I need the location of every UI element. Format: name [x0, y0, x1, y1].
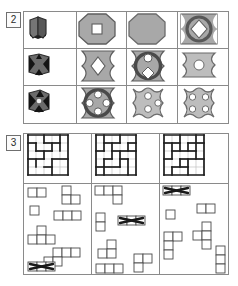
piece-domino-h[interactable] — [28, 188, 46, 197]
figure-page: 2 — [0, 0, 238, 286]
matrix-cell-r2c1[interactable] — [24, 49, 77, 86]
matrix-cell-r1c3[interactable] — [127, 12, 177, 49]
starred-block-icon — [24, 86, 76, 123]
concave-rect-ring-diamond — [178, 12, 228, 48]
piece-crossed-plus[interactable] — [118, 216, 145, 225]
hourglass-ring-two-circles-diamond — [127, 49, 176, 85]
puzzle-grid-cell-2[interactable] — [92, 134, 160, 184]
shape-matrix-grid — [24, 12, 228, 123]
lobed-shape-three-circles — [127, 86, 176, 123]
panel-label-2: 2 — [6, 12, 21, 28]
matrix-cell-r2c4[interactable] — [178, 49, 228, 86]
matrix-cell-r1c4[interactable] — [178, 12, 228, 49]
piece-t-tetromino[interactable] — [193, 222, 211, 249]
piece-l-tromino[interactable] — [62, 186, 80, 204]
concave-rect-circle-hole — [178, 49, 228, 85]
piece-t-tetromino[interactable] — [28, 226, 55, 244]
piece-i-tromino-v[interactable] — [216, 246, 225, 273]
notched-block-icon — [24, 49, 76, 85]
puzzle-grid-cell-3[interactable] — [160, 134, 228, 184]
cube-icon — [24, 12, 76, 48]
piece-tray-cell-3[interactable] — [160, 184, 228, 274]
matrix-cell-r3c1[interactable] — [24, 86, 77, 123]
piece-i-tromino-h[interactable] — [54, 211, 81, 220]
piece-domino-h[interactable] — [197, 204, 215, 213]
matrix-cell-r1c2[interactable] — [77, 12, 127, 49]
puzzle-grid-cell-1[interactable] — [24, 134, 92, 184]
matrix-cell-r2c3[interactable] — [127, 49, 177, 86]
piece-tray-cell-2[interactable] — [92, 184, 160, 274]
matrix-cell-r2c2[interactable] — [77, 49, 127, 86]
piece-crossed-i-tromino[interactable] — [163, 186, 190, 195]
panel-shape-matrix — [23, 11, 229, 124]
piece-l-pentomino[interactable] — [164, 232, 182, 259]
hourglass-ring-four-circles — [77, 86, 126, 123]
hourglass-with-diamond-hole — [77, 49, 126, 85]
plain-octagon — [127, 12, 176, 48]
piece-domino-v[interactable] — [96, 213, 105, 231]
puzzle-grid-2 — [92, 134, 159, 183]
piece-tray-cell-1[interactable] — [24, 184, 92, 274]
piece-crossed-tetromino[interactable] — [28, 262, 55, 271]
panel-polyomino-puzzle — [23, 133, 229, 275]
piece-p-tetromino[interactable] — [134, 254, 152, 272]
matrix-cell-r3c2[interactable] — [77, 86, 127, 123]
puzzle-grid-1 — [24, 134, 91, 183]
piece-monomino[interactable] — [30, 206, 39, 215]
octagon-with-square-hole — [77, 12, 126, 48]
piece-monomino[interactable] — [166, 210, 175, 219]
panel-label-3: 3 — [6, 135, 21, 151]
piece-l-tetromino-a[interactable] — [95, 186, 122, 204]
lobed-shape-four-circles — [178, 86, 228, 123]
piece-s-tetromino[interactable] — [98, 240, 116, 258]
matrix-cell-r3c4[interactable] — [178, 86, 228, 123]
piece-i-tetromino[interactable] — [96, 264, 123, 273]
matrix-cell-r1c1[interactable] — [24, 12, 77, 49]
puzzle-grid-3 — [160, 134, 228, 183]
puzzle-grid-layout — [24, 134, 228, 274]
matrix-cell-r3c3[interactable] — [127, 86, 177, 123]
